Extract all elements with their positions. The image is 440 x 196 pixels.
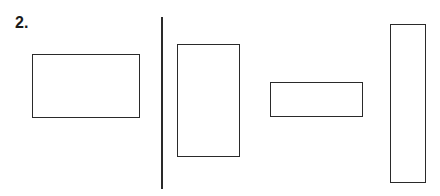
rectangle-wide-left bbox=[32, 54, 140, 118]
rectangle-wide-flat bbox=[270, 82, 363, 117]
vertical-divider-line bbox=[161, 17, 163, 189]
figure-label: 2. bbox=[15, 14, 28, 32]
rectangle-tall-medium bbox=[177, 44, 240, 157]
rectangle-tall-narrow bbox=[390, 24, 426, 183]
